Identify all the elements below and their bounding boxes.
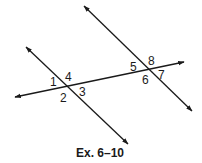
angle-label-5: 5 <box>130 60 137 74</box>
left-parallel-line <box>26 47 128 144</box>
angle-label-2: 2 <box>60 91 67 105</box>
angle-label-8: 8 <box>148 54 155 68</box>
figure-caption: Ex. 6–10 <box>76 146 124 160</box>
angle-label-1: 1 <box>50 75 57 89</box>
angle-label-4: 4 <box>65 70 72 84</box>
parallel-lines-diagram: 1 4 2 3 5 8 6 7 Ex. 6–10 <box>0 0 202 163</box>
angle-label-7: 7 <box>158 68 165 82</box>
right-parallel-line <box>84 6 192 111</box>
angle-label-6: 6 <box>142 73 149 87</box>
angle-label-3: 3 <box>79 85 86 99</box>
